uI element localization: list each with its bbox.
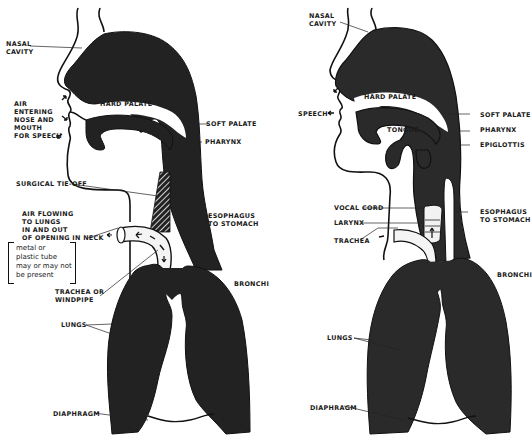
label-air-flowing: AIR FLOWING TO LUNGS IN AND OUT OF OPENI… — [22, 210, 104, 242]
label-esophagus-right: ESOPHAGUS TO STOMACH — [480, 208, 531, 224]
label-bronchi-right: BRONCHI — [497, 271, 532, 279]
label-speech: SPEECH — [298, 110, 328, 118]
label-hard-palate-right: HARD PALATE — [364, 93, 416, 101]
right-lung-left — [367, 260, 440, 434]
label-diaphragm-left: DIAPHRAGM — [53, 410, 100, 418]
label-air-entering: AIR ENTERING NOSE AND MOUTH FOR SPEECH — [14, 100, 62, 140]
label-surgical-tie-off: SURGICAL TIE-OFF — [16, 180, 87, 188]
bracket-left — [8, 242, 14, 284]
label-pharynx-left: PHARYNX — [205, 138, 242, 146]
label-nasal-cavity-right: NASAL CAVITY — [309, 12, 336, 28]
label-bronchi-left: BRONCHI — [234, 280, 269, 288]
label-epiglottis: EPIGLOTTIS — [480, 141, 525, 149]
label-tube-note: metal or plastic tube may or may not be … — [16, 244, 72, 280]
label-trachea-right: TRACHEA — [334, 237, 370, 245]
label-larynx: LARYNX — [334, 219, 364, 227]
label-soft-palate-right: SOFT PALATE — [480, 111, 531, 119]
bracket-right — [70, 242, 76, 284]
vocal-cord — [424, 205, 442, 243]
label-lungs-right: LUNGS — [327, 334, 353, 342]
label-esophagus-left: ESOPHAGUS TO STOMACH — [208, 212, 259, 228]
diaphragm-line — [148, 414, 214, 422]
surgical-tie-off — [150, 172, 170, 232]
label-pharynx-right: PHARYNX — [480, 126, 517, 134]
label-hard-palate-left: HARD PALATE — [100, 100, 152, 108]
label-diaphragm-right: DIAPHRAGM — [310, 404, 357, 412]
label-nasal-cavity-left: NASAL CAVITY — [6, 40, 33, 56]
diaphragm-line-right — [408, 416, 476, 424]
label-lungs-left: LUNGS — [61, 321, 87, 329]
label-tongue: TONGUE — [387, 126, 419, 134]
label-soft-palate-left: SOFT PALATE — [206, 120, 257, 128]
label-trachea-left: TRACHEA OR WINDPIPE — [55, 288, 104, 304]
label-vocal-cord: VOCAL CORD — [334, 204, 384, 212]
